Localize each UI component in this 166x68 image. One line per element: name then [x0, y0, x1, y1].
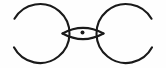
left-circle-arc — [14, 4, 70, 63]
right-circle-arc — [97, 4, 153, 63]
figure-container — [0, 0, 166, 68]
diagram-canvas — [0, 0, 166, 68]
center-dot — [81, 31, 85, 35]
